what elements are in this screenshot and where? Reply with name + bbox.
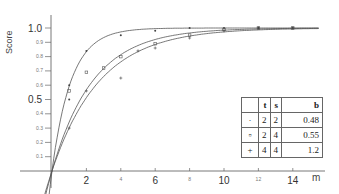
svg-text:14: 14 [287,175,299,186]
svg-text:8: 8 [188,176,191,182]
table-cell: 2 [270,113,282,128]
svg-text:12: 12 [256,176,262,182]
svg-text:0.4: 0.4 [36,110,43,116]
table-row: ·220.48 [242,113,323,128]
table-row: +441.2 [242,143,323,158]
svg-text:2: 2 [84,175,90,186]
svg-text:1.0: 1.0 [28,23,42,34]
svg-text:0.6: 0.6 [36,82,43,88]
svg-text:0.5: 0.5 [28,94,42,105]
table-cell: b [282,98,323,113]
table-cell: 2 [259,113,271,128]
svg-text:0.3: 0.3 [36,125,43,131]
svg-text:0.9: 0.9 [36,39,43,45]
table-cell: 4 [270,128,282,143]
svg-text:0.8: 0.8 [36,53,43,59]
marker-cell: · [242,113,259,128]
svg-text:6: 6 [152,175,158,186]
table-cell: 1.2 [282,143,323,158]
table-header-row: tsb [242,98,323,113]
table-cell: 0.55 [282,128,323,143]
table-cell: s [270,98,282,113]
marker-cell [242,98,259,113]
svg-text:10: 10 [218,175,230,186]
y-axis-ticks: 0.10.20.30.40.60.70.80.90.51.0 [28,23,51,160]
marker-cell: + [242,143,259,158]
table-cell: 0.48 [282,113,323,128]
marker-cell: ▫ [242,128,259,143]
svg-text:0.2: 0.2 [36,139,43,145]
svg-text:0.7: 0.7 [36,67,43,73]
table-cell: 4 [270,143,282,158]
table-cell: t [259,98,271,113]
parameter-table: tsb·220.48▫240.55+441.2 [241,97,323,158]
table-cell: 2 [259,128,271,143]
svg-text:4: 4 [119,176,122,182]
table-row: ▫240.55 [242,128,323,143]
y-axis-label: Score [4,30,14,54]
x-axis-label: m [312,172,320,183]
table-cell: 4 [259,143,271,158]
svg-text:0.1: 0.1 [36,153,43,159]
